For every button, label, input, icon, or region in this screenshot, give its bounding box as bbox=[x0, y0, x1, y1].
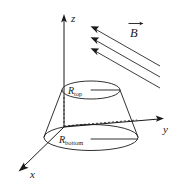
field-arrowhead-3 bbox=[91, 48, 100, 55]
field-label-group: B bbox=[129, 22, 144, 40]
x-axis-label: x bbox=[29, 168, 35, 180]
field-arrow-2 bbox=[91, 37, 161, 77]
field-arrow-3 bbox=[91, 48, 161, 88]
z-axis-label: z bbox=[70, 12, 76, 24]
field-arrow-1 bbox=[91, 26, 161, 66]
field-label: B bbox=[130, 26, 138, 40]
field-arrowhead-1 bbox=[91, 26, 100, 33]
bottom-radius-label: Rbottom bbox=[58, 134, 83, 146]
axis-group: z y x bbox=[19, 12, 169, 180]
top-radius-label: Rtop bbox=[67, 85, 82, 97]
x-axis-arrowhead bbox=[19, 163, 29, 172]
magnetic-field-group: B bbox=[91, 22, 161, 88]
figure-container: z y x bbox=[0, 0, 176, 189]
x-axis bbox=[19, 127, 65, 172]
field-arrowhead-2 bbox=[91, 37, 100, 44]
physics-diagram: z y x bbox=[0, 0, 176, 189]
frustum-solid: Rtop Rbottom bbox=[44, 81, 138, 151]
field-line-2 bbox=[96, 41, 160, 78]
field-line-1 bbox=[96, 30, 160, 67]
y-axis-label: y bbox=[162, 123, 168, 135]
